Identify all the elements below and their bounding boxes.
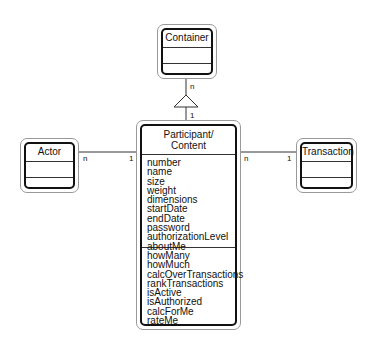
- class-container[interactable]: Container: [157, 24, 217, 79]
- operation-compartment: howMany howMuch calcOverTransactions ran…: [142, 247, 235, 327]
- class-name: Actor: [26, 144, 73, 161]
- operation-compartment: [26, 177, 73, 178]
- class-name-line1: Participant/: [142, 129, 235, 140]
- operation-compartment: [302, 177, 351, 178]
- multiplicity-participant-right: n: [244, 155, 248, 163]
- attribute-compartment: [163, 47, 211, 63]
- class-name: Transaction: [302, 144, 351, 161]
- class-participant-content[interactable]: Participant/ Content number name size we…: [136, 120, 241, 330]
- attribute-compartment: [26, 161, 73, 177]
- multiplicity-transaction: 1: [287, 155, 291, 163]
- operation: rateMe: [147, 316, 235, 325]
- class-transaction[interactable]: Transaction: [296, 138, 357, 193]
- operation-compartment: [163, 63, 211, 64]
- multiplicity-participant-left: 1: [129, 155, 133, 163]
- class-name: Container: [163, 30, 211, 47]
- multiplicity-actor: n: [83, 155, 87, 163]
- attribute-compartment: [302, 161, 351, 177]
- multiplicity-container: n: [190, 83, 194, 91]
- attribute-compartment: number name size weight dimensions start…: [142, 154, 235, 247]
- multiplicity-participant-top: 1: [190, 112, 194, 120]
- triangle-icon: [174, 95, 198, 107]
- class-name: Participant/ Content: [142, 126, 235, 154]
- class-name-line2: Content: [142, 140, 235, 151]
- class-actor[interactable]: Actor: [20, 138, 79, 193]
